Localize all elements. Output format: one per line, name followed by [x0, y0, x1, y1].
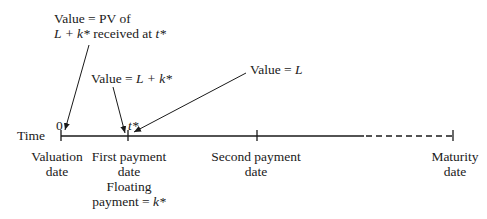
- annotation-l-plus-k: Value = L + k*: [91, 71, 172, 86]
- tstar-label: t*: [128, 118, 139, 133]
- tick-label-maturity: Maturity date: [431, 149, 478, 179]
- axis-label-time: Time: [17, 128, 45, 143]
- origin-label: 0: [56, 118, 63, 133]
- arrow-lk: [113, 87, 125, 133]
- arrow-pv: [65, 45, 89, 130]
- annotation-l: Value = L: [250, 62, 303, 77]
- tick-label-first-payment: First payment date Floating payment = k*: [92, 149, 167, 209]
- tick-label-valuation: Valuation date: [31, 149, 83, 179]
- annotation-pv-line2: L + k* received at t*: [54, 26, 166, 41]
- annotation-pv: Value = PV of L + k* received at t*: [54, 11, 166, 41]
- tick-label-second-payment: Second payment date: [211, 149, 301, 179]
- annotation-pv-line1: Value = PV of: [54, 11, 166, 26]
